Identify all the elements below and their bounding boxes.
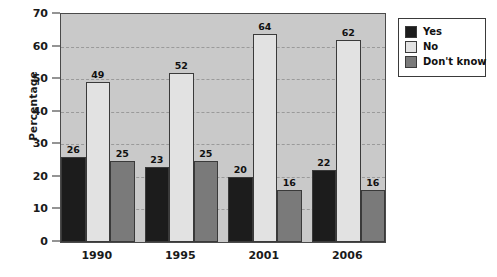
bar-2001-yes <box>228 177 253 242</box>
legend-item-no: No <box>405 41 480 53</box>
x-axis-group-label-2001: 2001 <box>248 249 279 262</box>
y-axis-tick-mark <box>52 208 60 209</box>
y-axis-tick-label: 70 <box>33 7 48 20</box>
x-axis-group-label-1995: 1995 <box>165 249 196 262</box>
legend-label: Yes <box>423 27 442 37</box>
bar-chart: Percentage 010203040506070 2649252352252… <box>0 0 497 277</box>
bar-2001-dontknow <box>277 190 302 242</box>
y-axis-tick-label: 20 <box>33 169 48 182</box>
bar-value-label: 62 <box>342 27 355 38</box>
legend-swatch-icon <box>405 26 417 38</box>
legend-label: No <box>423 42 438 52</box>
legend-label: Don't know <box>423 57 487 67</box>
bar-1995-no <box>169 73 194 242</box>
bar-1990-yes <box>61 157 86 242</box>
bar-1990-no <box>86 82 111 242</box>
bar-1995-dontknow <box>194 161 219 242</box>
legend-item-yes: Yes <box>405 26 480 38</box>
y-axis-tick-mark <box>52 175 60 176</box>
y-axis-tick-mark <box>52 143 60 144</box>
bar-value-label: 22 <box>317 157 330 168</box>
bar-value-label: 64 <box>258 21 271 32</box>
y-axis-tick-label: 60 <box>33 39 48 52</box>
y-axis-tick-label: 30 <box>33 137 48 150</box>
bar-2001-no <box>253 34 278 242</box>
plot-area: 264925235225206416226216 <box>60 13 386 243</box>
bar-value-label: 26 <box>67 144 80 155</box>
y-axis: 010203040506070 <box>0 0 60 277</box>
bar-2006-dontknow <box>361 190 386 242</box>
y-axis-tick-label: 40 <box>33 104 48 117</box>
y-axis-tick-mark <box>52 241 60 242</box>
bar-value-label: 23 <box>150 154 163 165</box>
bar-value-label: 52 <box>175 60 188 71</box>
x-axis-group-label-2006: 2006 <box>332 249 363 262</box>
y-axis-tick-mark <box>52 78 60 79</box>
y-axis-tick-mark <box>52 110 60 111</box>
bar-2006-yes <box>312 170 337 242</box>
chart-legend: YesNoDon't know <box>398 18 486 77</box>
bar-2006-no <box>336 40 361 242</box>
y-axis-tick-label: 50 <box>33 72 48 85</box>
legend-swatch-icon <box>405 56 417 68</box>
bar-value-label: 25 <box>199 148 212 159</box>
y-axis-tick-label: 10 <box>33 202 48 215</box>
legend-item-dontknow: Don't know <box>405 56 480 68</box>
bar-value-label: 49 <box>91 69 104 80</box>
bar-value-label: 16 <box>283 177 296 188</box>
legend-swatch-icon <box>405 41 417 53</box>
bar-value-label: 20 <box>234 164 247 175</box>
bar-value-label: 16 <box>366 177 379 188</box>
y-axis-tick-label: 0 <box>40 235 48 248</box>
bar-value-label: 25 <box>116 148 129 159</box>
y-axis-tick-mark <box>52 13 60 14</box>
bar-1995-yes <box>145 167 170 242</box>
bar-1990-dontknow <box>110 161 135 242</box>
x-axis-group-label-1990: 1990 <box>81 249 112 262</box>
y-axis-tick-mark <box>52 45 60 46</box>
